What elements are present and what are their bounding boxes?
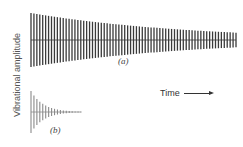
time-label-text: Time — [160, 88, 180, 98]
panel-label-a: (a) — [118, 56, 129, 66]
x-axis-label: Time — [160, 88, 211, 98]
waveform-a — [31, 13, 236, 67]
arrow-right-icon — [184, 93, 211, 94]
panel-label-b: (b) — [50, 125, 61, 135]
waveform-canvas — [0, 0, 243, 147]
y-axis-label: Vibrational amplitude — [12, 33, 22, 117]
